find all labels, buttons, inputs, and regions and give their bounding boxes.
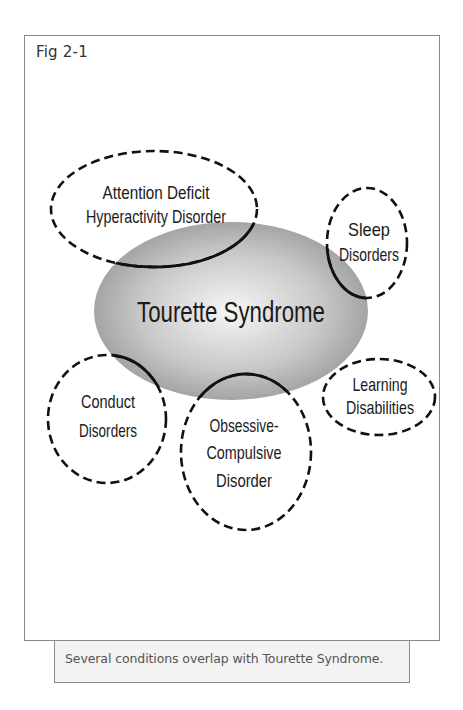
- overlap-diagram: Tourette Syndrome Attention Deficit Hype…: [0, 0, 463, 710]
- sleep-label-line2: Disorders: [339, 244, 399, 265]
- ocd-label-line2: Compulsive: [207, 442, 282, 463]
- learning-label-line2: Disabilities: [346, 397, 414, 418]
- sleep-label-line1: Sleep: [348, 219, 390, 240]
- figure-caption: Several conditions overlap with Tourette…: [65, 651, 383, 666]
- ocd-label-line1: Obsessive-: [210, 415, 279, 436]
- adhd-label-line1: Attention Deficit: [103, 182, 211, 203]
- conduct-label-line1: Conduct: [81, 391, 136, 412]
- tourette-label: Tourette Syndrome: [137, 296, 325, 328]
- caption-box: Several conditions overlap with Tourette…: [54, 641, 410, 683]
- conduct-label-line2: Disorders: [79, 420, 137, 441]
- learning-label-line1: Learning: [353, 374, 408, 395]
- ocd-label-line3: Disorder: [216, 470, 273, 491]
- adhd-label-line2: Hyperactivity Disorder: [86, 206, 227, 227]
